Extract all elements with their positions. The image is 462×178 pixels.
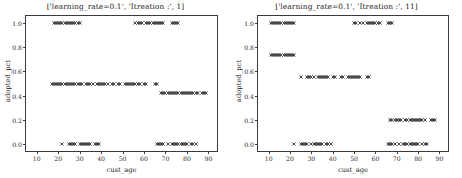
scatter-marker <box>324 75 328 79</box>
x-axis-tick <box>439 151 440 154</box>
scatter-marker <box>155 82 159 86</box>
scatter-marker <box>397 142 401 146</box>
scatter-marker <box>176 21 180 25</box>
x-axis-tick <box>165 151 166 154</box>
y-axis-tick <box>255 71 258 72</box>
scatter-marker <box>433 118 437 122</box>
scatter-marker <box>326 75 330 79</box>
scatter-marker <box>405 118 409 122</box>
scatter-marker <box>393 142 397 146</box>
scatter-marker <box>303 142 307 146</box>
scatter-marker <box>69 82 73 86</box>
scatter-marker <box>284 53 288 57</box>
scatter-marker <box>84 82 88 86</box>
scatter-marker <box>73 82 77 86</box>
y-axis-tick <box>23 144 26 145</box>
scatter-marker <box>373 21 377 25</box>
scatter-marker <box>86 82 90 86</box>
y-axis-tick-label: 0.6 <box>12 68 22 75</box>
scatter-marker <box>350 75 354 79</box>
scatter-marker <box>170 91 174 95</box>
y-axis-tick-label: 0.2 <box>244 116 254 123</box>
x-axis-tick <box>311 151 312 154</box>
scatter-marker <box>129 82 133 86</box>
x-axis-tick-label: 40 <box>329 155 337 162</box>
y-axis-tick <box>23 96 26 97</box>
scatter-marker <box>305 75 309 79</box>
scatter-marker <box>271 53 275 57</box>
scatter-marker <box>356 75 360 79</box>
scatter-marker <box>425 142 429 146</box>
scatter-marker <box>367 21 371 25</box>
scatter-marker <box>318 142 322 146</box>
scatter-marker <box>86 142 90 146</box>
scatter-marker <box>299 142 303 146</box>
scatter-marker <box>299 75 303 79</box>
scatter-marker <box>320 142 324 146</box>
scatter-marker <box>408 142 412 146</box>
scatter-marker <box>101 82 105 86</box>
scatter-marker <box>416 118 420 122</box>
plot-area-right <box>258 16 448 151</box>
plot-axes-left: 0.00.20.40.60.81.0102030405060708090 <box>25 15 218 152</box>
x-axis-tick <box>144 151 145 154</box>
scatter-marker <box>196 91 200 95</box>
x-axis-tick-label: 30 <box>307 155 315 162</box>
x-axis-tick-label: 20 <box>54 155 62 162</box>
scatter-marker <box>305 142 309 146</box>
scatter-marker <box>185 91 189 95</box>
scatter-marker <box>67 21 71 25</box>
scatter-marker <box>140 21 144 25</box>
scatter-marker <box>277 53 281 57</box>
scatter-marker <box>282 53 286 57</box>
x-axis-tick-label: 20 <box>286 155 294 162</box>
scatter-marker <box>284 21 288 25</box>
scatter-marker <box>416 142 420 146</box>
scatter-marker <box>133 82 137 86</box>
scatter-marker <box>277 21 281 25</box>
x-axis-label-right: cust_age <box>257 166 449 174</box>
scatter-marker <box>271 21 275 25</box>
scatter-marker <box>163 91 167 95</box>
scatter-marker <box>127 82 131 86</box>
scatter-marker <box>60 21 64 25</box>
y-axis-tick-label: 0.6 <box>244 68 254 75</box>
scatter-marker <box>170 142 174 146</box>
scatter-marker <box>275 53 279 57</box>
scatter-marker <box>269 53 273 57</box>
scatter-marker <box>431 118 435 122</box>
scatter-marker <box>161 91 165 95</box>
chart-title-left: ['learning_rate=0.1', 'Itreation :', 1] <box>0 2 231 11</box>
x-axis-tick-label: 90 <box>204 155 212 162</box>
scatter-marker <box>69 142 73 146</box>
scatter-marker <box>63 82 67 86</box>
scatter-marker <box>393 118 397 122</box>
scatter-marker <box>269 21 273 25</box>
scatter-marker <box>65 21 69 25</box>
scatter-marker <box>397 118 401 122</box>
scatter-marker <box>76 82 80 86</box>
scatter-marker <box>282 21 286 25</box>
x-axis-tick <box>375 151 376 154</box>
scatter-marker <box>378 21 382 25</box>
scatter-marker <box>410 142 414 146</box>
scatter-marker <box>273 53 277 57</box>
scatter-marker <box>312 142 316 146</box>
scatter-marker <box>125 82 129 86</box>
scatter-marker <box>307 75 311 79</box>
scatter-marker <box>194 91 198 95</box>
scatter-marker <box>341 75 345 79</box>
scatter-marker <box>54 21 58 25</box>
scatter-marker <box>157 21 161 25</box>
scatter-plot-figure: ['learning_rate=0.1', 'Itreation :', 1] … <box>0 0 462 178</box>
x-axis-tick <box>208 151 209 154</box>
scatter-marker <box>346 75 350 79</box>
y-axis-tick <box>23 71 26 72</box>
scatter-marker <box>123 82 127 86</box>
scatter-marker <box>172 142 176 146</box>
scatter-marker <box>84 142 88 146</box>
scatter-marker <box>67 142 71 146</box>
y-axis-tick-label: 1.0 <box>244 20 254 27</box>
scatter-marker <box>390 21 394 25</box>
scatter-marker <box>71 21 75 25</box>
